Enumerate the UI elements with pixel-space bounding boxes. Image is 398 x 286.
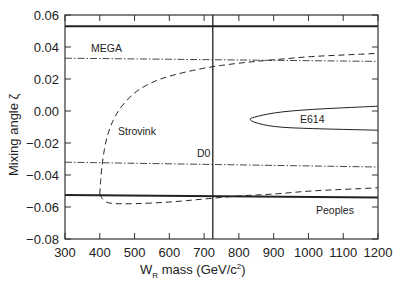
x-axis-title-w: W <box>140 262 153 277</box>
y-tick-label: 0.04 <box>34 40 59 55</box>
y-tick-label: 0.06 <box>34 8 59 23</box>
series-strovink-upper-branch <box>100 53 378 194</box>
peoples-label: Peoples <box>316 204 354 216</box>
series-mega <box>65 58 378 61</box>
y-tick-label: 0.00 <box>34 104 59 119</box>
x-axis-title: WR mass (GeV/c2) <box>140 262 246 280</box>
y-tick-label: −0.02 <box>26 136 59 151</box>
y-tick-label: −0.06 <box>26 200 59 215</box>
x-tick-label: 600 <box>158 245 180 260</box>
mega-label: MEGA <box>91 42 122 54</box>
axes: 300400500600700800900100011001200−0.08−0… <box>26 8 392 260</box>
series-mega-lower <box>65 162 378 167</box>
x-tick-label: 300 <box>54 245 76 260</box>
x-tick-label: 1100 <box>329 245 357 260</box>
y-tick-label: −0.08 <box>26 232 59 247</box>
x-tick-label: 700 <box>193 245 215 260</box>
chart: 300400500600700800900100011001200−0.08−0… <box>0 0 398 286</box>
y-tick-label: −0.04 <box>26 168 59 183</box>
x-axis-title-rest: mass (GeV/c <box>158 262 237 277</box>
x-tick-label: 400 <box>89 245 111 260</box>
x-tick-label: 800 <box>228 245 250 260</box>
x-tick-label: 1200 <box>364 245 393 260</box>
strovink-label: Strovink <box>118 125 157 137</box>
x-axis-title-end: ) <box>241 262 245 277</box>
y-tick-label: 0.02 <box>34 72 59 87</box>
e614-label: E614 <box>300 113 325 125</box>
x-tick-label: 900 <box>263 245 285 260</box>
y-axis-title: Mixing angle ζ <box>6 93 21 176</box>
d0-label: D0 <box>197 147 211 159</box>
x-tick-label: 1000 <box>294 245 323 260</box>
x-tick-label: 500 <box>124 245 146 260</box>
